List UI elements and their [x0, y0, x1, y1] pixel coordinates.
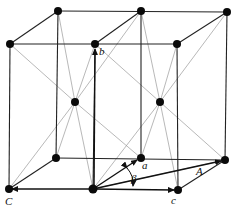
- label-c: c: [171, 194, 176, 206]
- atom: [173, 40, 181, 48]
- atom: [52, 154, 60, 162]
- vector-c: [93, 189, 174, 190]
- label-C: C: [5, 195, 13, 207]
- atom: [91, 40, 99, 48]
- cell-edges: [9, 11, 227, 190]
- lattice-svg: b a c C A β: [0, 0, 235, 207]
- labels: b a c C A β: [5, 45, 203, 207]
- atom: [174, 186, 182, 194]
- vector-b: [94, 49, 95, 189]
- atom: [5, 185, 13, 193]
- atom: [137, 7, 145, 15]
- label-beta: β: [130, 172, 137, 184]
- body-center-atom: [156, 98, 164, 106]
- atom: [223, 8, 231, 16]
- lattice-vectors: [12, 49, 221, 190]
- label-A: A: [195, 165, 203, 177]
- atom: [221, 156, 229, 164]
- label-a: a: [142, 159, 148, 171]
- body-diagonals: [9, 11, 227, 190]
- origin-atom: [89, 185, 98, 194]
- lattice-diagram: b a c C A β: [0, 0, 235, 207]
- body-center-atom: [71, 98, 79, 106]
- label-b: b: [99, 45, 105, 57]
- atom: [54, 7, 62, 15]
- atom: [6, 40, 14, 48]
